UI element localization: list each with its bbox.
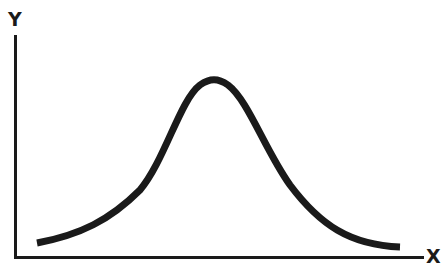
y-axis-label: Y <box>8 10 22 29</box>
bell-curve-diagram <box>0 0 446 268</box>
x-axis-label: X <box>426 247 441 266</box>
bell-curve <box>37 80 400 247</box>
